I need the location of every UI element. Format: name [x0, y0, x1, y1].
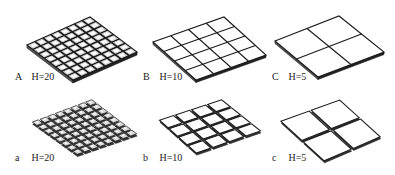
tile-highlight	[89, 101, 91, 103]
tile-highlight	[44, 118, 46, 120]
tile-highlight	[72, 139, 74, 141]
tile-highlight	[101, 135, 103, 137]
tile-highlight	[88, 108, 90, 110]
tile-highlight	[91, 120, 93, 122]
tile-highlight	[88, 134, 90, 136]
tile-highlight	[103, 128, 105, 130]
tile-highlight	[109, 133, 111, 135]
tile-highlight	[93, 138, 95, 140]
tile-highlight	[84, 147, 86, 149]
panel-b-grid	[160, 100, 261, 155]
panel-letter: a	[15, 152, 29, 164]
tile-highlight	[78, 143, 80, 145]
tile-highlight	[48, 129, 50, 131]
tile-highlight	[74, 107, 76, 109]
tile-highlight	[82, 129, 84, 131]
panel-caption: H=10	[160, 152, 183, 163]
tile-highlight	[59, 138, 61, 140]
tile-highlight	[116, 130, 118, 132]
tile-highlight	[122, 134, 124, 136]
panel-caption: H=20	[32, 71, 55, 82]
tile-highlight	[71, 146, 73, 148]
panel-label-c: c H=5	[272, 152, 306, 164]
tile-highlight	[86, 141, 88, 143]
tile-highlight	[118, 123, 120, 125]
tile-highlight	[49, 122, 51, 124]
tile-highlight	[105, 121, 107, 123]
tile-highlight	[93, 113, 95, 115]
tile-highlight	[51, 115, 53, 117]
tile-highlight	[53, 133, 55, 135]
tile-highlight	[92, 145, 94, 147]
tile-highlight	[82, 104, 84, 106]
tile-highlight	[124, 127, 126, 129]
panel-letter: A	[15, 71, 29, 83]
tile-highlight	[130, 132, 132, 134]
panel-letter: C	[272, 71, 286, 83]
tile-highlight	[72, 114, 74, 116]
tile-highlight	[67, 110, 69, 112]
tile-highlight	[69, 128, 71, 130]
tile-highlight	[70, 121, 72, 123]
tile-highlight	[114, 137, 116, 139]
tile-highlight	[42, 125, 44, 127]
tile-highlight	[99, 117, 101, 119]
tile-highlight	[55, 127, 57, 129]
panel-label-C: C H=5	[272, 71, 306, 83]
panel-caption: H=5	[289, 152, 307, 163]
tile-highlight	[95, 105, 97, 107]
tile-highlight	[101, 110, 103, 112]
panel-caption: H=10	[160, 71, 183, 82]
tile-highlight	[65, 117, 67, 119]
panel-letter: b	[143, 152, 157, 164]
panel-label-B: B H=10	[143, 71, 182, 83]
panel-a-grid	[32, 100, 137, 157]
tile-highlight	[80, 136, 82, 138]
tile-highlight	[95, 131, 97, 133]
tile-highlight	[86, 115, 88, 117]
tile-highlight	[59, 112, 61, 114]
tile-highlight	[74, 132, 76, 134]
panel-label-a: a H=20	[15, 152, 54, 164]
panel-C-grid	[275, 16, 384, 80]
tile-highlight	[90, 127, 92, 129]
tile-highlight	[65, 142, 67, 144]
tile-highlight	[67, 135, 69, 137]
panel-caption: H=20	[32, 152, 55, 163]
panel-letter: c	[272, 152, 286, 164]
tile-highlight	[63, 124, 65, 126]
figure-canvas	[0, 0, 395, 175]
tile-highlight	[78, 118, 80, 120]
tile-highlight	[76, 125, 78, 127]
tile-highlight	[80, 111, 82, 113]
panel-caption: H=5	[289, 71, 307, 82]
tile-highlight	[36, 121, 38, 123]
tile-highlight	[57, 120, 59, 122]
tile-highlight	[112, 118, 114, 120]
tile-highlight	[97, 124, 99, 126]
panel-label-A: A H=20	[15, 71, 54, 83]
tile-highlight	[61, 131, 63, 133]
panel-label-b: b H=10	[143, 152, 182, 164]
tile-highlight	[99, 142, 101, 144]
panel-letter: B	[143, 71, 157, 83]
tile-highlight	[84, 122, 86, 124]
tile-highlight	[107, 139, 109, 141]
tile-highlight	[111, 126, 113, 128]
tile-highlight	[76, 150, 78, 152]
tile-highlight	[107, 114, 109, 116]
